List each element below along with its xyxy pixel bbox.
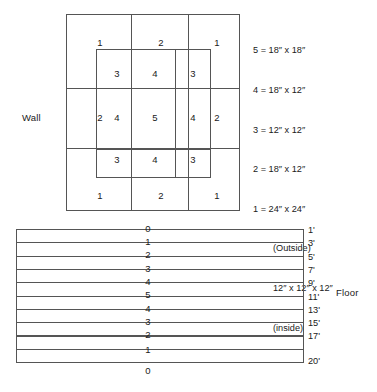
- floor-line: [16, 242, 304, 243]
- wall-cell: 5: [147, 113, 163, 123]
- floor-band-number: 3: [139, 264, 157, 274]
- floor-line: [16, 322, 304, 323]
- floor-measurement: 7': [308, 266, 315, 275]
- floor-measurement: 20': [308, 357, 320, 366]
- wall-cell: 3: [109, 69, 125, 79]
- floor-line: [16, 282, 304, 283]
- wall-cell: 4: [109, 113, 125, 123]
- floor-band-number: 5: [139, 290, 157, 300]
- floor-band-number: 4: [139, 277, 157, 287]
- inner-grid-hline-1: [97, 88, 210, 89]
- wall-cell: 1: [92, 38, 108, 48]
- wall-cell: 2: [153, 38, 169, 48]
- wall-cell: 3: [185, 69, 201, 79]
- wall-cell: 3: [185, 155, 201, 165]
- floor-band-number: 3: [139, 317, 157, 327]
- floor-measurement: 13': [308, 306, 320, 315]
- diagram-canvas: Wall 1 2 1 2 2 1 2 1 3 4 3 4 5 4 3: [0, 0, 377, 392]
- floor-band-number: 2: [139, 250, 157, 260]
- floor-measurement: 3': [308, 239, 315, 248]
- wall-cell: 1: [209, 191, 225, 201]
- floor-measurement: 9': [308, 279, 315, 288]
- wall-cell: 4: [185, 113, 201, 123]
- floor-measurement: 5': [308, 253, 315, 262]
- legend-line: 5 = 18″ x 18″: [253, 44, 333, 57]
- wall-label: Wall: [22, 112, 41, 123]
- wall-cell: 2: [209, 113, 225, 123]
- wall-cell: 4: [147, 155, 163, 165]
- floor-line: [16, 269, 304, 270]
- floor-line: [16, 296, 304, 297]
- floor-band-number: 0: [139, 224, 157, 234]
- floor-line: [16, 256, 304, 257]
- legend-line: 4 = 18″ x 12″: [253, 84, 333, 97]
- wall-cell: 3: [109, 155, 125, 165]
- floor-line: [16, 335, 304, 336]
- floor-line: [16, 362, 304, 363]
- floor-band-number: 1: [139, 237, 157, 247]
- floor-line: [16, 229, 304, 230]
- floor-diagram: 0 1 2 3 4 5 4 3 2 1 0 1' 3' 5' 7' 9' 11'…: [0, 215, 377, 392]
- floor-label: Floor: [336, 287, 359, 298]
- floor-box: 0 1 2 3 4 5 4 3 2 1 0 1' 3' 5' 7' 9' 11'…: [16, 229, 304, 362]
- wall-cell: 2: [153, 191, 169, 201]
- inner-grid-vline-2: [175, 50, 176, 177]
- floor-measurement: 15': [308, 319, 320, 328]
- floor-line: [16, 309, 304, 310]
- legend-line: 2 = 18″ x 12″: [253, 163, 333, 176]
- floor-measurement: 17': [308, 332, 320, 341]
- wall-cell: 4: [147, 69, 163, 79]
- floor-band-number: 1: [139, 345, 157, 355]
- wall-diagram: Wall 1 2 1 2 2 1 2 1 3 4 3 4 5 4 3: [0, 0, 377, 215]
- wall-cell: 1: [209, 38, 225, 48]
- floor-band-number: 2: [139, 330, 157, 340]
- inner-grid-vline-1: [131, 50, 132, 177]
- floor-measurement: 11': [308, 293, 319, 302]
- floor-measurement: 1': [308, 226, 315, 235]
- floor-line: [16, 349, 304, 350]
- inner-grid-hline-2: [97, 149, 210, 150]
- wall-cell: 1: [92, 191, 108, 201]
- wall-inner-grid: 3 4 3 4 5 4 3 4 3: [96, 49, 211, 178]
- legend-line: 3 = 12″ x 12″: [253, 124, 333, 137]
- floor-band-number: 0: [139, 366, 157, 376]
- floor-band-number: 4: [139, 304, 157, 314]
